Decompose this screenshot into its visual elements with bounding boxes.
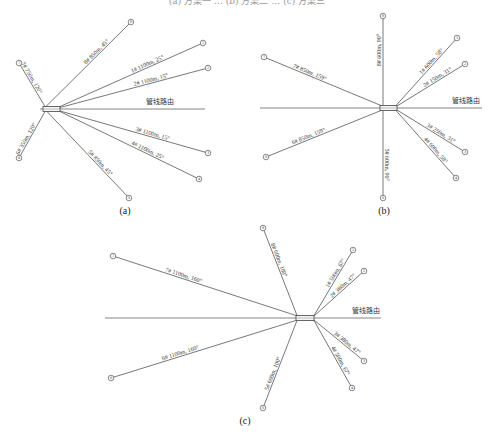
branch-label: 7# 750m, 120° (20, 61, 44, 95)
branch-label: 6# 850m, 159° (291, 126, 327, 145)
branch-8: 88# 600m, 90° (377, 13, 386, 105)
well-node-number: 2 (207, 66, 209, 70)
well-node-number: 7 (263, 55, 265, 59)
panel-a: 管线路由88# 850m, 45°11# 1100m, 25°22# 1100m… (15, 19, 211, 201)
branch-line (19, 63, 45, 107)
well-node-number: 1 (352, 248, 354, 252)
panel-c: 管线路由88# 600m, 100°11# 500m, 67°22# 380m,… (105, 225, 381, 411)
well-node-number: 1 (456, 36, 458, 40)
well-node-number: 7 (112, 254, 114, 258)
branch-label: 5# 600m, 90° (384, 148, 390, 181)
branch-label: 5# 850m, 45° (87, 149, 114, 177)
branch-1: 11# 1100m, 25° (60, 40, 206, 106)
branch-label: 1# 1100m, 25° (130, 54, 165, 74)
well-node-number: 1 (202, 41, 204, 45)
well-node-number: 6 (110, 376, 112, 380)
well-node-number: 2 (464, 62, 466, 66)
route-label: 管线路由 (146, 97, 174, 106)
well-node-number: 5 (382, 196, 384, 200)
branch-label: 7# 1100m, 160° (164, 267, 203, 285)
branch-label: 8# 850m, 45° (83, 38, 111, 66)
well-node-number: 8 (130, 20, 132, 24)
branch-line (19, 112, 45, 159)
well-node-number: 5 (262, 406, 264, 410)
branch-7: 77# 1100m, 160° (110, 253, 296, 315)
well-node-number: 3 (363, 359, 365, 363)
well-node-number: 3 (207, 151, 209, 155)
branch-label: 8# 600m, 100° (270, 242, 289, 278)
branch-7: 77# 850m, 159° (261, 54, 381, 105)
branch-label: 6# 1100m, 160° (161, 344, 200, 361)
branch-line (47, 112, 129, 199)
branch-line (113, 256, 296, 316)
branch-4: 44# 500m, 67° (314, 321, 355, 391)
well-node-number: 8 (382, 14, 384, 18)
branch-label: 4# 500m, 67° (330, 345, 352, 377)
well-node-number: 5 (128, 196, 130, 200)
branch-6: 66# 850m, 159° (263, 111, 381, 160)
pipeline-route-diagram: 管线路由88# 850m, 45°11# 1100m, 25°22# 1100m… (0, 0, 494, 440)
branch-label: 8# 600m, 90° (377, 33, 383, 66)
well-node-number: 6 (18, 156, 20, 160)
branch-label: 5# 600m, 100° (263, 355, 282, 391)
branch-label: 6# 350m, 120° (15, 121, 38, 155)
well-node-number: 8 (262, 226, 264, 230)
branch-line (263, 321, 297, 409)
route-label: 管线路由 (452, 96, 480, 105)
branch-8: 88# 600m, 100° (260, 225, 297, 315)
well-node-number: 2 (363, 269, 365, 273)
branch-label: 7# 850m, 159° (292, 63, 328, 82)
branch-4: 44# 1100m, 25° (60, 112, 202, 182)
caption-b: (b) (378, 205, 390, 217)
route-label: 管线路由 (352, 306, 380, 315)
branch-line (266, 111, 381, 158)
branch-line (111, 321, 296, 379)
branch-5: 55# 850m, 45° (47, 112, 132, 201)
branch-5: 55# 600m, 90° (380, 111, 389, 201)
panel-b: 管线路由88# 600m, 90°11# 600m, 58°22# 150m, … (260, 13, 482, 201)
branch-line (314, 321, 352, 389)
branch-line (396, 111, 456, 179)
well-node-number: 7 (18, 61, 20, 65)
branch-5: 55# 600m, 100° (260, 321, 297, 411)
caption-a: (a) (119, 205, 130, 217)
branch-7: 77# 750m, 120° (16, 60, 45, 106)
branch-6: 66# 1100m, 160° (108, 321, 296, 381)
branch-4: 44# 600m, 58° (396, 111, 459, 181)
branch-line (263, 228, 297, 316)
branch-6: 66# 350m, 120° (15, 112, 45, 161)
branch-line (264, 57, 381, 106)
caption-c: (c) (239, 415, 250, 427)
well-node-number: 3 (464, 150, 466, 154)
branch-label: 4# 1100m, 25° (131, 140, 166, 161)
branch-line (60, 112, 199, 180)
well-node-number: 6 (265, 155, 267, 159)
